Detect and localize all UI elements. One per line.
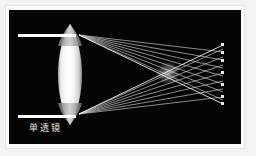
lens-body (57, 24, 82, 125)
lower-ray-fan (79, 49, 223, 114)
crossover-glow (156, 61, 180, 85)
marginal-rays (79, 35, 223, 114)
optics-figure: 单透镜 (0, 0, 256, 156)
ray-endpoint-marks (221, 43, 224, 105)
lower-aperture-bar (18, 115, 76, 118)
dark-panel: 单透镜 (9, 10, 241, 144)
upper-aperture-bar (18, 34, 76, 37)
upper-ray-fan (79, 35, 223, 100)
lens-caption-label: 单透镜 (29, 121, 62, 134)
